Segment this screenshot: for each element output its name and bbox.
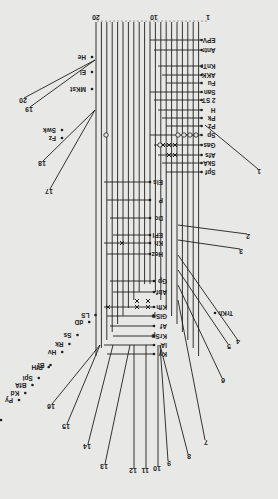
junction-dot	[149, 234, 152, 237]
branch-number: 12	[129, 467, 137, 474]
open-terminal-icon	[194, 133, 198, 137]
branch-lead	[30, 60, 95, 107]
branch-number: 10	[153, 465, 161, 472]
branch-number: 13	[100, 463, 108, 470]
signal-label: SkA	[203, 160, 216, 167]
signal-label: Gp	[158, 277, 167, 285]
junction-dot	[0, 419, 2, 422]
junction-dot	[149, 253, 152, 256]
scale-dot	[138, 21, 139, 22]
junction-dot	[68, 343, 71, 346]
signal-label: Kh	[154, 240, 163, 247]
scale-dot	[182, 21, 183, 22]
scale-dot	[142, 21, 143, 22]
signal-label: Pz	[207, 123, 215, 130]
signal-label: P	[158, 197, 163, 204]
junction-dot	[200, 134, 203, 137]
cross-terminal-icon	[135, 299, 139, 303]
junction-dot	[31, 384, 34, 387]
branch-number: 15	[62, 423, 70, 430]
signal-label: Ky	[158, 350, 167, 358]
branch-lead	[178, 270, 228, 344]
junction-dot	[200, 82, 203, 85]
junction-dot	[38, 377, 41, 380]
signal-label: Af	[159, 323, 167, 330]
junction-dot	[88, 321, 91, 324]
branch-number: 3	[239, 248, 243, 255]
signal-label: Gas	[203, 142, 216, 149]
junction-dot	[149, 217, 152, 220]
junction-dot	[200, 144, 203, 147]
open-terminal-icon	[176, 133, 180, 137]
branch-label: TrKh	[218, 310, 233, 317]
scale-dot	[106, 21, 107, 22]
junction-dot	[61, 137, 64, 140]
signal-label: Spf	[204, 168, 215, 176]
signal-label: Rk	[55, 341, 64, 348]
branch-lead	[178, 255, 237, 339]
scale-dot	[194, 21, 195, 22]
signal-label: dD	[74, 319, 83, 326]
scale-dot	[162, 21, 163, 22]
signal-label: EPI	[152, 232, 163, 239]
junction-dot	[61, 351, 64, 354]
scale-dot	[130, 21, 131, 22]
junction-dot	[200, 109, 203, 112]
branch-lead	[178, 300, 205, 440]
signal-label: Py	[5, 396, 13, 404]
junction-dot	[153, 344, 156, 347]
scale-dot	[134, 21, 135, 22]
branch-number: 9	[167, 460, 171, 467]
branch-number: 14	[83, 443, 91, 450]
signal-label: Abf	[155, 289, 167, 296]
signal-label: Pk	[207, 115, 215, 122]
junction-dot	[76, 334, 79, 337]
branch-lead	[178, 240, 240, 249]
junction-dot	[47, 366, 50, 369]
branch-number: 16	[47, 403, 55, 410]
junction-dot	[149, 199, 152, 202]
signal-label: Hez	[151, 251, 163, 258]
scale-dot	[102, 21, 103, 22]
signal-label: 2 ST	[202, 97, 216, 104]
signal-label: Dc	[154, 215, 163, 222]
junction-dot	[24, 392, 27, 395]
signal-label: Spi	[22, 374, 32, 382]
branch-lead	[88, 345, 113, 444]
scale-dot	[126, 21, 127, 22]
open-terminal-icon	[188, 133, 192, 137]
top-scale-mid: 10	[150, 14, 158, 21]
junction-dot	[200, 117, 203, 120]
signal-label: EPV	[202, 37, 216, 44]
branch-lead	[67, 345, 100, 424]
signal-label: Ss	[63, 332, 71, 339]
signal-label: KrSp	[151, 332, 167, 340]
branch-number: 2	[246, 233, 250, 240]
signal-label: El	[80, 69, 86, 76]
junction-dot	[61, 129, 64, 132]
junction-dot	[91, 88, 94, 91]
open-terminal-icon	[182, 133, 186, 137]
scale-dot	[122, 21, 123, 22]
scale-dot	[178, 21, 179, 22]
junction-dot	[214, 312, 217, 315]
scale-dot	[198, 21, 199, 22]
signal-label: H	[211, 107, 216, 114]
junction-dot	[200, 91, 203, 94]
scale-dot	[166, 21, 167, 22]
signal-label: San	[204, 89, 216, 96]
signal-label: Sp	[207, 131, 215, 139]
junction-dot	[18, 399, 21, 402]
branch-number: 17	[45, 188, 53, 195]
scanned-diagram-page: EPVAntrKnTrAKKFuSan2 STHPkPzSpGasAfsSkAS…	[0, 0, 278, 499]
signal-label: Hv	[48, 349, 57, 356]
junction-dot	[153, 325, 156, 328]
branch-lead	[178, 225, 247, 234]
junction-dot	[91, 56, 94, 59]
wiring-grid-diagram: EPVAntrKnTrAKKFuSan2 STHPkPzSpGasAfsSkAS…	[0, 0, 278, 499]
signal-label: KnTr	[200, 63, 215, 70]
signal-label: Kfh	[156, 304, 167, 311]
branch-number: 11	[141, 467, 149, 474]
junction-dot	[200, 154, 203, 157]
signal-label: Fz	[48, 135, 56, 142]
